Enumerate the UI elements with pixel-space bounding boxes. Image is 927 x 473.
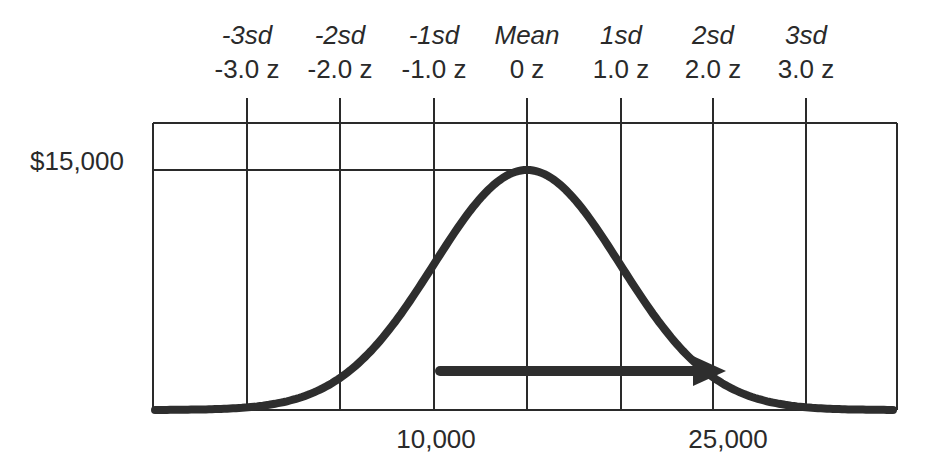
arrow-10000-to-25000 [440, 356, 726, 386]
sd-gridlines [247, 98, 806, 410]
plot-area [0, 0, 927, 473]
